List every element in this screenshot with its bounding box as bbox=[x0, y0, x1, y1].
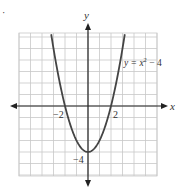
tick-label-neg4: −4 bbox=[73, 154, 84, 165]
tick-label-2: 2 bbox=[113, 109, 118, 120]
equation-label: y = x2 − 4 bbox=[123, 56, 162, 68]
tick-label-neg2: −2 bbox=[53, 109, 64, 120]
x-axis-right-arrow-icon bbox=[161, 103, 168, 109]
y-axis-label: y bbox=[83, 9, 89, 21]
parabola-chart: · y x −2 2 −4 y = x2 − 4 bbox=[0, 0, 180, 189]
y-axis-down-arrow-icon bbox=[85, 180, 91, 187]
x-axis-label: x bbox=[169, 100, 175, 112]
y-axis-up-arrow-icon bbox=[85, 23, 91, 30]
x-axis-left-arrow-icon bbox=[10, 103, 17, 109]
bullet-marker: · bbox=[2, 7, 5, 18]
